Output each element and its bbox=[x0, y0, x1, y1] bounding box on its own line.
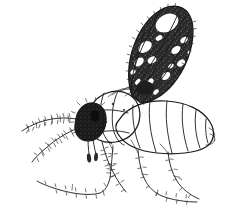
compound-eye bbox=[91, 111, 100, 122]
insect-illustration-figure bbox=[0, 0, 226, 216]
wing-basal-blotch bbox=[136, 81, 154, 95]
insect-drawing-canvas bbox=[0, 0, 226, 216]
